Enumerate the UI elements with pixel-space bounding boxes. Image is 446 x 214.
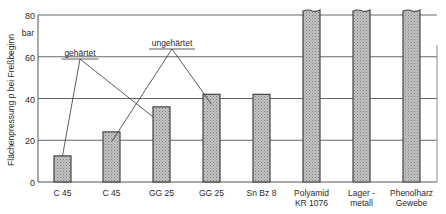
bar [403, 10, 420, 182]
x-category-label: Lager - [348, 188, 375, 198]
y-tick-label: 0 [30, 178, 35, 188]
x-category-label: metall [350, 198, 373, 208]
bars [54, 10, 420, 182]
bar-chart: gehärtetungehärtet 020406080barFlächenpr… [0, 0, 446, 214]
annotation-leader-line [80, 59, 153, 117]
bar [153, 107, 170, 182]
x-category-label: Sn Bz 8 [247, 188, 277, 198]
x-category-label: KR 1076 [295, 198, 328, 208]
bar [54, 156, 71, 182]
bar [103, 132, 120, 182]
x-category-label: Gewebe [396, 198, 428, 208]
x-category-label: Polyamid [294, 188, 329, 198]
annotation-leader-line [63, 59, 81, 156]
bar [303, 10, 320, 182]
y-tick-label: 80 [25, 11, 35, 21]
grid-lines [38, 15, 437, 140]
x-category-label: GG 25 [199, 188, 224, 198]
y-tick-label: 60 [25, 53, 35, 63]
annotation-leader-line [172, 49, 212, 104]
x-category-label: C 45 [103, 188, 121, 198]
x-category-label: Phenolharz [390, 188, 433, 198]
bar [253, 94, 270, 182]
x-category-label: GG 25 [149, 188, 174, 198]
bar [203, 94, 220, 182]
annotations: gehärtetungehärtet [62, 38, 212, 156]
y-unit-label: bar [22, 28, 34, 38]
y-tick-label: 40 [25, 95, 35, 105]
x-category-label: C 45 [54, 188, 72, 198]
bar [353, 10, 370, 182]
y-tick-label: 20 [25, 136, 35, 146]
annotation-label: ungehärtet [152, 38, 193, 48]
y-axis-title: Flächenpressung p bei Freßbeginn [6, 34, 16, 166]
annotation-label: gehärtet [64, 48, 96, 58]
